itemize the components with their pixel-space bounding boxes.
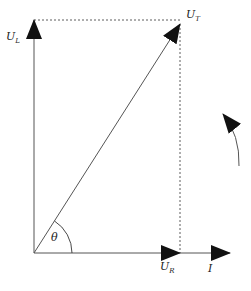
label-theta: θ	[51, 231, 58, 244]
vector-u-t	[34, 24, 180, 253]
label-u-r: UR	[160, 260, 175, 275]
label-u-l: UL	[6, 30, 20, 45]
rotation-arrow	[223, 114, 239, 166]
label-i: I	[207, 262, 213, 275]
phasor-diagram: UL UT UR I θ	[0, 0, 251, 291]
label-u-t: UT	[186, 8, 201, 23]
